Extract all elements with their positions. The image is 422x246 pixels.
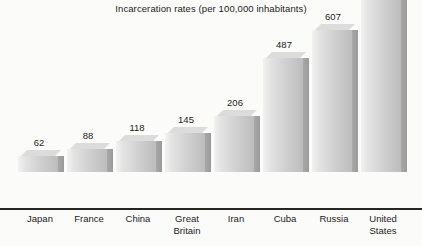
bar-side-face [254,116,260,172]
x-tick-label-line2: Britain [162,225,212,237]
bar-side-face [303,58,309,172]
bar-side-face [352,30,358,172]
x-tick-label-russia: Russia [309,213,359,225]
x-tick-label-line1: Iran [211,213,261,225]
bar-side-face [156,141,162,172]
bar-group-cuba: 487 [263,52,309,172]
bar-side-face [205,133,211,172]
bar-front-face [214,116,254,172]
bar-group-russia: 607 [312,24,358,172]
bar-cuba[interactable] [263,52,309,172]
bar-front-face [165,133,205,172]
bar-group-france: 88 [67,143,113,172]
x-tick-label-great-britain: Great Britain [162,213,212,236]
plot-area: 62 88 118 1 [0,0,422,210]
bar-front-face [18,156,58,172]
bar-china[interactable] [116,135,162,172]
bar-great-britain[interactable] [165,127,211,172]
bar-japan[interactable] [18,150,64,172]
incarceration-rates-bar-chart: Incarceration rates (per 100,000 inhabit… [0,0,422,246]
bar-front-face [263,58,303,172]
bar-side-face [107,149,113,172]
x-tick-label-france: France [64,213,114,225]
bar-group-china: 118 [116,135,162,172]
bar-front-face [312,30,352,172]
x-tick-label-united-states: United States [358,213,408,236]
x-tick-label-line1: United [358,213,408,225]
bar-side-face [401,0,407,172]
bar-value-china: 118 [116,122,158,133]
bar-france[interactable] [67,143,113,172]
x-axis-line [0,208,422,210]
x-tick-label-line2: States [358,225,408,237]
bar-value-japan: 62 [18,137,60,148]
x-tick-label-line1: Russia [309,213,359,225]
bar-front-face [361,0,401,172]
x-tick-label-japan: Japan [15,213,65,225]
x-tick-label-line1: Cuba [260,213,310,225]
bar-group-iran: 206 [214,110,260,172]
bar-group-great-britain: 145 [165,127,211,172]
bar-group-japan: 62 [18,150,64,172]
x-tick-label-iran: Iran [211,213,261,225]
bar-value-cuba: 487 [263,39,305,50]
x-tick-label-line1: Japan [15,213,65,225]
bar-side-face [58,156,64,172]
bar-value-russia: 607 [312,11,354,22]
x-tick-label-line1: Great [162,213,212,225]
bar-group-united-states: 738 [361,0,407,172]
bar-value-iran: 206 [214,97,256,108]
bar-russia[interactable] [312,24,358,172]
bar-iran[interactable] [214,110,260,172]
bar-front-face [67,149,107,172]
x-tick-label-line1: China [113,213,163,225]
bar-value-great-britain: 145 [165,114,207,125]
bar-value-france: 88 [67,130,109,141]
bar-front-face [116,141,156,172]
x-tick-label-china: China [113,213,163,225]
x-tick-label-line1: France [64,213,114,225]
bar-united-states[interactable] [361,0,407,172]
x-tick-label-cuba: Cuba [260,213,310,225]
